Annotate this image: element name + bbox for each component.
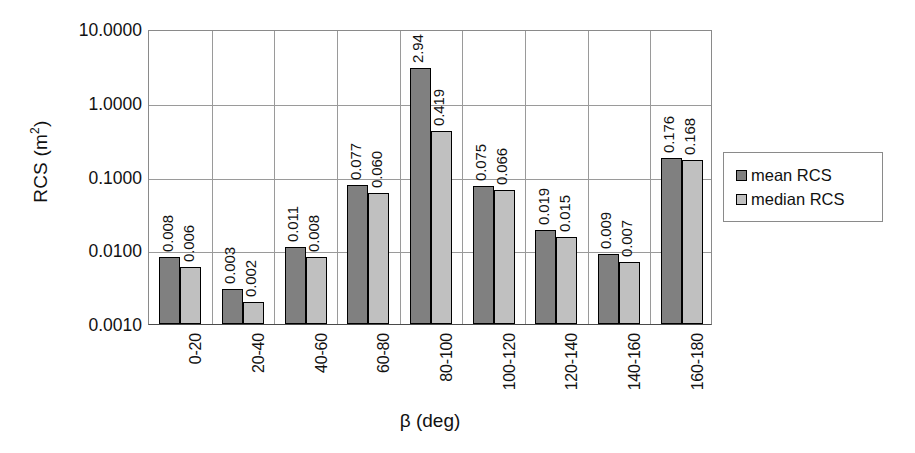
bar-value-label: 0.060: [368, 151, 385, 188]
bar-median: [306, 257, 327, 324]
bar-value-label: 0.006: [180, 225, 197, 262]
x-axis-tick-label: 60-80: [375, 333, 393, 373]
rcs-bar-chart: RCS (m2) 10.00001.00000.10000.01000.0010…: [0, 0, 915, 453]
bar-median: [556, 237, 577, 324]
bar-mean: [222, 289, 243, 324]
bar-group: 0.0770.060: [337, 31, 400, 324]
bar-value-label: 0.419: [430, 89, 447, 126]
bar-value-label: 0.011: [284, 206, 301, 242]
legend-item-label: mean RCS: [751, 166, 832, 185]
bar-mean: [473, 186, 494, 324]
bar-value-label: 0.176: [660, 116, 677, 153]
bar-median: [619, 262, 640, 324]
y-axis-tick-label: 0.0010: [42, 315, 142, 336]
legend-item[interactable]: mean RCS: [736, 164, 872, 186]
legend-item[interactable]: median RCS: [736, 188, 872, 210]
y-axis-tick-label: 1.0000: [42, 93, 142, 114]
bar-value-label: 0.168: [681, 118, 698, 155]
x-axis-tick-label: 80-100: [438, 333, 456, 382]
bar-value-label: 0.066: [493, 148, 510, 185]
x-axis-tick-label: 20-40: [250, 333, 268, 373]
bar-mean: [347, 185, 368, 324]
x-axis-tick-label: 40-60: [313, 333, 331, 373]
bar-value-label: 0.077: [347, 143, 364, 180]
bar-value-label: 0.003: [221, 247, 238, 284]
x-axis-tick-label: 0-20: [187, 333, 205, 364]
y-axis-tick-labels: 10.00001.00000.10000.01000.0010: [38, 0, 142, 453]
chart-legend: mean RCSmedian RCS: [723, 152, 883, 222]
bar-median: [243, 302, 264, 324]
bar-value-label: 2.94: [409, 34, 426, 63]
plot-area: 0.0080.0060.0030.0020.0110.0080.0770.060…: [148, 30, 712, 325]
bar-mean: [535, 230, 556, 324]
bar-group: 0.0090.007: [588, 31, 651, 324]
bar-value-label: 0.008: [305, 215, 322, 252]
bar-group: 0.0750.066: [462, 31, 525, 324]
y-axis-tick-label: 0.0100: [42, 241, 142, 262]
legend-swatch-icon: [736, 194, 747, 205]
bar-value-label: 0.019: [535, 188, 552, 225]
legend-swatch-icon: [736, 170, 747, 181]
bar-median: [682, 160, 703, 324]
bar-group: 0.1760.168: [650, 31, 713, 324]
bar-mean: [661, 158, 682, 324]
bar-group: 0.0030.002: [212, 31, 275, 324]
x-axis-tick-label: 160-180: [689, 333, 707, 390]
bar-group: 0.0110.008: [274, 31, 337, 324]
bar-mean: [598, 254, 619, 324]
legend-item-label: median RCS: [751, 190, 845, 209]
bar-mean: [285, 247, 306, 324]
bar-group: 0.0190.015: [525, 31, 588, 324]
bar-mean: [410, 68, 431, 324]
bar-group: 2.940.419: [400, 31, 463, 324]
bar-median: [368, 193, 389, 324]
bar-group: 0.0080.006: [149, 31, 212, 324]
bar-value-label: 0.015: [556, 195, 573, 232]
bar-value-label: 0.007: [618, 220, 635, 257]
bar-value-label: 0.008: [159, 215, 176, 252]
x-axis-tick-label: 100-120: [501, 333, 519, 390]
bar-median: [431, 131, 452, 324]
y-axis-tick-label: 10.0000: [42, 20, 142, 41]
bar-value-label: 0.002: [242, 260, 259, 297]
y-axis-tick-label: 0.1000: [42, 167, 142, 188]
bar-value-label: 0.075: [472, 144, 489, 181]
bar-median: [180, 267, 201, 324]
bar-value-label: 0.009: [597, 212, 614, 249]
bar-mean: [159, 257, 180, 324]
x-axis-title: β (deg): [148, 410, 712, 432]
x-axis-tick-label: 140-160: [626, 333, 644, 390]
x-axis-tick-label: 120-140: [563, 333, 581, 390]
bar-median: [494, 190, 515, 324]
